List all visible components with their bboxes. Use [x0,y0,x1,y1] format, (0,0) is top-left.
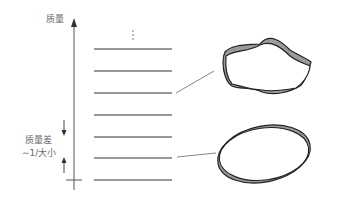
axis-arrow-up-icon [71,18,77,27]
diagram-graphics [0,0,337,199]
gap-arrow-up-icon [62,157,67,173]
gap-arrow-down-icon [62,120,67,136]
ellipsis-dots [132,30,134,40]
mass-axis [66,18,82,190]
connector-upper [176,71,214,93]
energy-levels [94,49,172,180]
connector-lower [177,153,216,157]
mass-spectrum-diagram: 质量 质量差 ∼1/大小 [0,0,337,199]
high-mode-deformed-ring [223,38,311,93]
low-mode-elliptic-ring [212,117,316,191]
